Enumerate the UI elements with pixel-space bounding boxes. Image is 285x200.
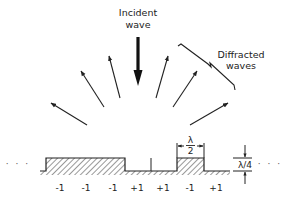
ellipsis-right: · · · (258, 159, 282, 169)
ellipsis-left: · · · (6, 159, 30, 169)
phase-label: -1 (109, 183, 118, 193)
half-wavelength-dimension: λ 2 (177, 135, 204, 158)
phase-label: -1 (56, 183, 65, 193)
diffracted-arrow-icon (109, 56, 120, 98)
diffracted-waves-label-line1: Diffracted (217, 49, 264, 60)
phase-label: -1 (82, 183, 91, 193)
half-wavelength-denominator: 2 (188, 146, 194, 156)
half-wavelength-numerator: λ (188, 135, 194, 145)
diffraction-grating-diagram: Incident wave Diffracted waves · · · · ·… (0, 0, 285, 200)
quarter-wavelength-dimension: λ/4 (233, 145, 252, 184)
incident-wave-label-line2: wave (125, 19, 150, 30)
phase-label: -1 (186, 183, 195, 193)
incident-arrow-icon (134, 37, 143, 86)
diffracted-arrow-icon (81, 71, 104, 107)
diffracted-arrow-icon (190, 103, 228, 125)
phase-label: +1 (130, 183, 143, 193)
diffracted-arrow-icon (51, 103, 87, 125)
phase-labels: -1 -1 -1 +1 +1 -1 +1 (56, 183, 223, 193)
phase-label: +1 (156, 183, 169, 193)
incident-wave-label-line1: Incident (119, 7, 158, 18)
diffracted-arrow-icon (173, 71, 197, 107)
phase-label: +1 (209, 183, 222, 193)
quarter-wavelength-label: λ/4 (238, 160, 252, 170)
diffracted-waves-label-line2: waves (226, 60, 256, 71)
diffracted-arrow-icon (156, 56, 168, 98)
phase-grating (40, 158, 230, 175)
